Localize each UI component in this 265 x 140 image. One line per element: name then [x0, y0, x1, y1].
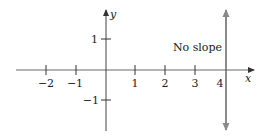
x-tick-label: −2	[38, 77, 54, 90]
x-tick-label: −1	[67, 77, 83, 90]
x-tick-label: 2	[162, 77, 169, 90]
y-axis-label: y	[109, 8, 117, 21]
x-tick-label: 3	[192, 77, 199, 90]
coordinate-plane: −2 −1 1 2 3 4 1 −1 x y No slope	[0, 0, 265, 140]
y-tick-label: 1	[91, 33, 98, 46]
no-slope-annotation: No slope	[173, 41, 222, 54]
x-axis-label: x	[245, 72, 252, 85]
y-tick-label: −1	[83, 94, 99, 107]
x-tick-label: 4	[217, 77, 224, 90]
x-tick-label: 1	[132, 77, 139, 90]
